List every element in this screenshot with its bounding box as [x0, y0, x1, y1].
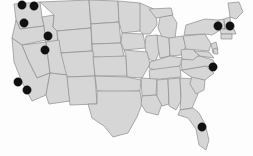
state-maine: [228, 2, 243, 19]
marker-western-oregon[interactable]: [20, 19, 28, 27]
us-map-svg: [0, 0, 253, 156]
state-connecticut: [221, 34, 232, 39]
state-pennsylvania: [183, 34, 211, 51]
marker-northern-utah[interactable]: [44, 32, 52, 40]
state-delaware: [213, 48, 218, 54]
state-wyoming: [57, 28, 92, 53]
state-arizona: [46, 73, 70, 104]
marker-northern-washington-west[interactable]: [18, 1, 26, 9]
state-alabama: [168, 78, 181, 110]
marker-southern-florida[interactable]: [198, 123, 206, 131]
marker-central-utah[interactable]: [41, 46, 49, 54]
state-kansas: [93, 56, 127, 76]
state-north-dakota: [89, 0, 119, 24]
state-iowa: [121, 33, 146, 50]
marker-northern-washington-east[interactable]: [30, 2, 38, 10]
state-colorado: [61, 51, 95, 77]
state-missouri: [124, 50, 150, 78]
state-new-mexico: [67, 76, 97, 105]
marker-southern-california[interactable]: [23, 86, 31, 94]
state-oklahoma: [95, 76, 141, 92]
marker-central-california[interactable]: [14, 78, 22, 86]
state-nebraska: [92, 43, 124, 58]
state-arkansas: [141, 78, 157, 96]
state-indiana: [157, 35, 170, 58]
state-south-dakota: [91, 22, 121, 44]
marker-upstate-new-york[interactable]: [214, 22, 222, 30]
marker-massachusetts[interactable]: [226, 22, 234, 30]
marker-virginia-dc[interactable]: [209, 63, 217, 71]
state-wisconsin: [140, 3, 157, 34]
state-michigan: [158, 15, 177, 39]
us-map-figure: [0, 0, 253, 156]
state-boundaries-layer: [12, 0, 243, 150]
